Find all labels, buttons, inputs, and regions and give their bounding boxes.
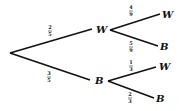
svg-text:5: 5 [48, 31, 52, 37]
fraction-b-b: 2 3 [128, 91, 132, 104]
svg-text:3: 3 [129, 66, 133, 72]
svg-text:5: 5 [47, 77, 51, 83]
fraction-w-w: 4 9 [129, 4, 133, 17]
svg-text:4: 4 [129, 4, 133, 10]
edge-w-to-b [110, 30, 158, 46]
node-w: W [96, 24, 109, 35]
fraction-root-w: 2 5 [48, 24, 52, 37]
leaf-w-b: B [159, 41, 168, 52]
svg-text:2: 2 [128, 91, 132, 97]
svg-text:2: 2 [48, 24, 52, 30]
node-b: B [94, 75, 103, 86]
fraction-w-b: 5 9 [129, 40, 133, 53]
fraction-root-b: 3 5 [47, 70, 51, 83]
probability-tree-diagram: W B W B W B 2 5 3 5 4 9 5 9 1 3 2 3 [0, 0, 179, 111]
svg-text:3: 3 [128, 98, 132, 104]
svg-text:5: 5 [129, 40, 133, 46]
leaf-b-w: W [159, 61, 172, 72]
svg-text:1: 1 [129, 59, 132, 65]
fraction-b-w: 1 3 [129, 59, 133, 72]
svg-text:9: 9 [129, 11, 133, 17]
leaf-w-w: W [162, 9, 175, 20]
edge-w-to-w [110, 14, 160, 30]
svg-text:9: 9 [129, 47, 133, 53]
svg-text:3: 3 [47, 70, 51, 76]
leaf-b-b: B [155, 93, 164, 104]
